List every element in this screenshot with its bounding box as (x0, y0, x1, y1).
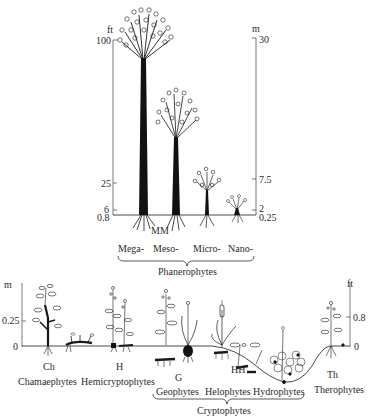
bottom-left-axis (22, 283, 26, 347)
top-right-tick-0.25: 0.25 (259, 212, 277, 223)
label-therophytes: Therophytes (314, 384, 364, 395)
top-right-tick-7.5: 7.5 (259, 174, 272, 185)
code-h: H (116, 361, 123, 372)
meso-phanerophyte-tree (156, 88, 199, 231)
nano-phanerophyte-shrub (227, 195, 247, 224)
top-left-tick-25: 25 (101, 178, 111, 189)
code-ch: Ch (43, 361, 55, 372)
category-micro: Micro- (193, 243, 221, 254)
chamaephyte-plant (33, 284, 95, 356)
bottom-left-tick-0: 0 (13, 341, 18, 352)
code-th: Th (327, 369, 338, 380)
micro-phanerophyte-tree (193, 167, 221, 228)
bottom-right-axis (346, 283, 350, 347)
top-left-tick-0.8: 0.8 (97, 212, 110, 223)
bottom-right-tick-0.8: 0.8 (353, 312, 366, 323)
top-right-tick-30: 30 (259, 34, 269, 45)
top-left-axis (113, 40, 118, 215)
therophyte-plant (321, 301, 344, 358)
category-mega: Mega- (118, 243, 144, 254)
helophyte-plants (212, 300, 262, 372)
bottom-left-axis-unit: m (4, 279, 12, 290)
cryptophytes-label: Cryptophytes (197, 405, 251, 416)
code-hh: HH (231, 364, 245, 375)
mm-bud-marker: MM (151, 225, 169, 236)
category-nano: Nano- (228, 243, 253, 254)
label-chamaephytes: Chamaephytes (18, 376, 77, 387)
top-left-axis-unit: ft (107, 24, 113, 35)
bottom-left-tick-0.25: 0.25 (2, 315, 20, 326)
code-g: G (175, 372, 182, 383)
geophyte-plants (155, 289, 197, 367)
label-geophytes: Geophytes (156, 386, 199, 397)
hemicryptophyte-plants (105, 287, 134, 353)
life-forms-diagram (0, 0, 368, 420)
hydrophyte-plants (270, 327, 305, 384)
phanerophytes-brace (118, 256, 254, 266)
top-left-tick-100: 100 (96, 35, 111, 46)
phanerophytes-label: Phanerophytes (158, 266, 217, 277)
label-hemicryptophytes: Hemicryptophytes (81, 376, 155, 387)
label-hydrophytes: Hydrophytes (253, 386, 305, 397)
mega-phanerophyte-tree (118, 8, 173, 231)
category-meso: Meso- (153, 243, 179, 254)
label-helophytes: Helophytes (205, 386, 251, 397)
bottom-right-axis-unit: ft (347, 278, 353, 289)
top-right-axis-unit: m (252, 23, 260, 34)
bottom-right-tick-0: 0 (354, 341, 359, 352)
top-right-axis (252, 38, 256, 215)
